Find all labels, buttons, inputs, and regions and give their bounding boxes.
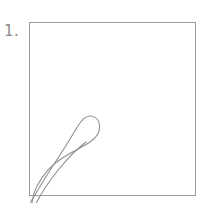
step-number-label: 1. (4, 20, 26, 42)
drawing-canvas-frame (29, 22, 196, 196)
drawing-tutorial-page: 1. (0, 0, 214, 207)
